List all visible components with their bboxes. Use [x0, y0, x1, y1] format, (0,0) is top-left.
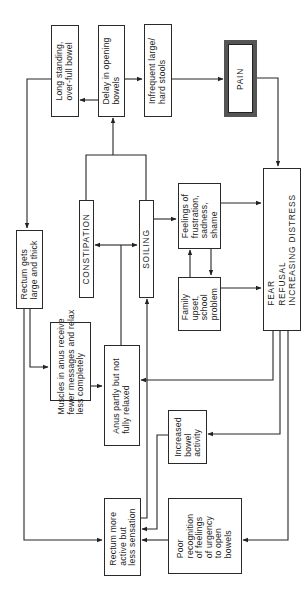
- node-rectum-more-active: Rectum more active but less sensation: [104, 498, 141, 576]
- node-label: Rectum more active but less sensation: [108, 508, 137, 565]
- node-label: CONSTIPATION: [82, 213, 92, 284]
- node-label: PAIN: [236, 67, 246, 89]
- node-feelings: Feelings of frustration, sadness, shame: [178, 183, 221, 249]
- node-long-standing-bowel: Long standing, over-full bowel: [51, 25, 79, 117]
- node-anus-partly-relaxed: Anus partly but not fully relaxed: [104, 345, 140, 446]
- node-label: Long standing, over-full bowel: [55, 41, 74, 100]
- node-infrequent-stools: Infrequent large/ hard stools: [144, 24, 172, 117]
- node-label: FEAR REFUSAL INCREASING DISTRESS: [266, 194, 298, 306]
- node-soiling: SOILING: [139, 200, 154, 298]
- node-label: Infrequent large/ hard stools: [148, 38, 167, 104]
- flowchart-canvas: Long standing, over-full bowel Delay in …: [0, 0, 307, 603]
- node-label: Family upset, school problem: [180, 288, 218, 320]
- node-label: Delay in opening bowels: [102, 37, 121, 104]
- node-delay-opening-bowels: Delay in opening bowels: [98, 25, 125, 117]
- node-label: SOILING: [142, 229, 152, 269]
- node-label: Anus partly but not fully relaxed: [112, 358, 131, 433]
- node-label: Muscles in anus receive fewer messages a…: [56, 309, 85, 414]
- node-increased-bowel-activity: Increased bowel activity: [168, 410, 207, 464]
- node-label: Rectum gets large and thick: [20, 240, 39, 299]
- node-constipation: CONSTIPATION: [79, 200, 94, 298]
- node-family-school: Family upset, school problem: [178, 277, 221, 331]
- node-label: Poor recognition of feelings of urgency …: [176, 514, 234, 558]
- node-label: Increased bowel activity: [173, 417, 202, 457]
- node-pain: PAIN: [224, 40, 257, 117]
- node-poor-recognition: Poor recognition of feelings of urgency …: [168, 498, 242, 574]
- node-rectum-large-thick: Rectum gets large and thick: [16, 230, 43, 309]
- node-fear-refusal-distress: FEAR REFUSAL INCREASING DISTRESS: [263, 168, 301, 331]
- node-muscles-in-anus: Muscles in anus receive fewer messages a…: [50, 322, 91, 401]
- node-label: Feelings of frustration, sadness, shame: [180, 194, 218, 238]
